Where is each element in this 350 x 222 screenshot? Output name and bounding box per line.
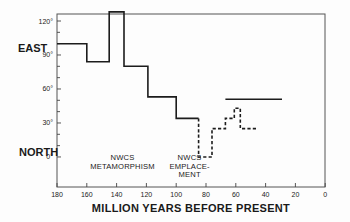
x-tick-label: 160	[81, 191, 93, 198]
y-axis-ticks: 120°90°60°30°0°	[39, 18, 61, 161]
x-tick-label: 140	[111, 191, 123, 198]
y-label-east: EAST	[18, 42, 48, 54]
x-tick-label: 80	[202, 191, 210, 198]
x-tick-label: 0	[323, 191, 327, 198]
x-tick-label: 120	[141, 191, 153, 198]
series-line-0	[57, 12, 199, 119]
chart: 120°90°60°30°0° 180160140120100806040200…	[0, 0, 350, 222]
data-series	[57, 12, 282, 157]
x-tick-label: 20	[292, 191, 300, 198]
x-tick-label: 180	[51, 191, 63, 198]
y-tick-label: 60°	[42, 85, 53, 92]
annotation-label: NWCSMETAMORPHISM	[90, 153, 155, 170]
annotation-line: MENT	[178, 170, 200, 179]
annotations: NWCSMETAMORPHISMNWCSEMPLACE-MENT	[90, 153, 210, 179]
series-line-1	[199, 108, 259, 157]
y-label-north: NORTH	[19, 146, 58, 158]
x-tick-label: 60	[232, 191, 240, 198]
x-axis-title: MILLION YEARS BEFORE PRESENT	[92, 202, 290, 214]
y-tick-label: 120°	[39, 18, 54, 25]
x-tick-label: 100	[170, 191, 182, 198]
x-tick-label: 40	[262, 191, 270, 198]
x-axis-ticks: 180160140120100806040200	[51, 183, 327, 198]
annotation-line: METAMORPHISM	[90, 162, 155, 171]
y-tick-label: 30°	[42, 119, 53, 126]
